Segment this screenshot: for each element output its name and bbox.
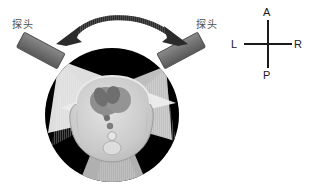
thorax-body (70, 76, 153, 162)
compass-label-posterior: P (263, 69, 270, 81)
arc-shaft-shade (74, 18, 170, 36)
double-headed-arc-arrow (56, 18, 188, 46)
probe-right-label: 探头 (196, 16, 218, 31)
ultrasound-image-field (45, 48, 179, 186)
compass-label-right: R (294, 38, 302, 50)
heart-vessel (104, 115, 110, 121)
compass-label-anterior: A (263, 6, 270, 18)
vertebra-marker (108, 132, 116, 140)
probe-right-body[interactable] (157, 32, 206, 69)
probe-right[interactable] (157, 32, 206, 69)
anatomical-orientation-compass (244, 20, 292, 68)
illustration-svg (0, 0, 316, 194)
spinal-structure (103, 141, 121, 155)
probe-left-body[interactable] (16, 32, 65, 69)
probe-left[interactable] (16, 32, 65, 69)
probe-left-label: 探头 (12, 16, 34, 31)
compass-label-left: L (231, 38, 237, 50)
figure-canvas: 探头 探头 A P L R (0, 0, 316, 194)
arrow-head-left (56, 26, 82, 46)
aorta-marker (107, 123, 113, 129)
arrow-head-right (162, 26, 188, 46)
